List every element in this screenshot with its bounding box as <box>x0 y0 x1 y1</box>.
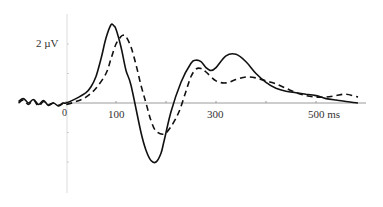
x-tick-label-0: 0 <box>62 107 67 118</box>
solid-waveform <box>19 24 359 163</box>
x-tick-label-500: 500 ms <box>308 108 340 120</box>
x-tick-label-300: 300 <box>207 108 224 120</box>
erp-line-chart <box>0 0 383 207</box>
y-scale-label: 2 µV <box>36 37 59 49</box>
x-tick-label-100: 100 <box>108 108 125 120</box>
